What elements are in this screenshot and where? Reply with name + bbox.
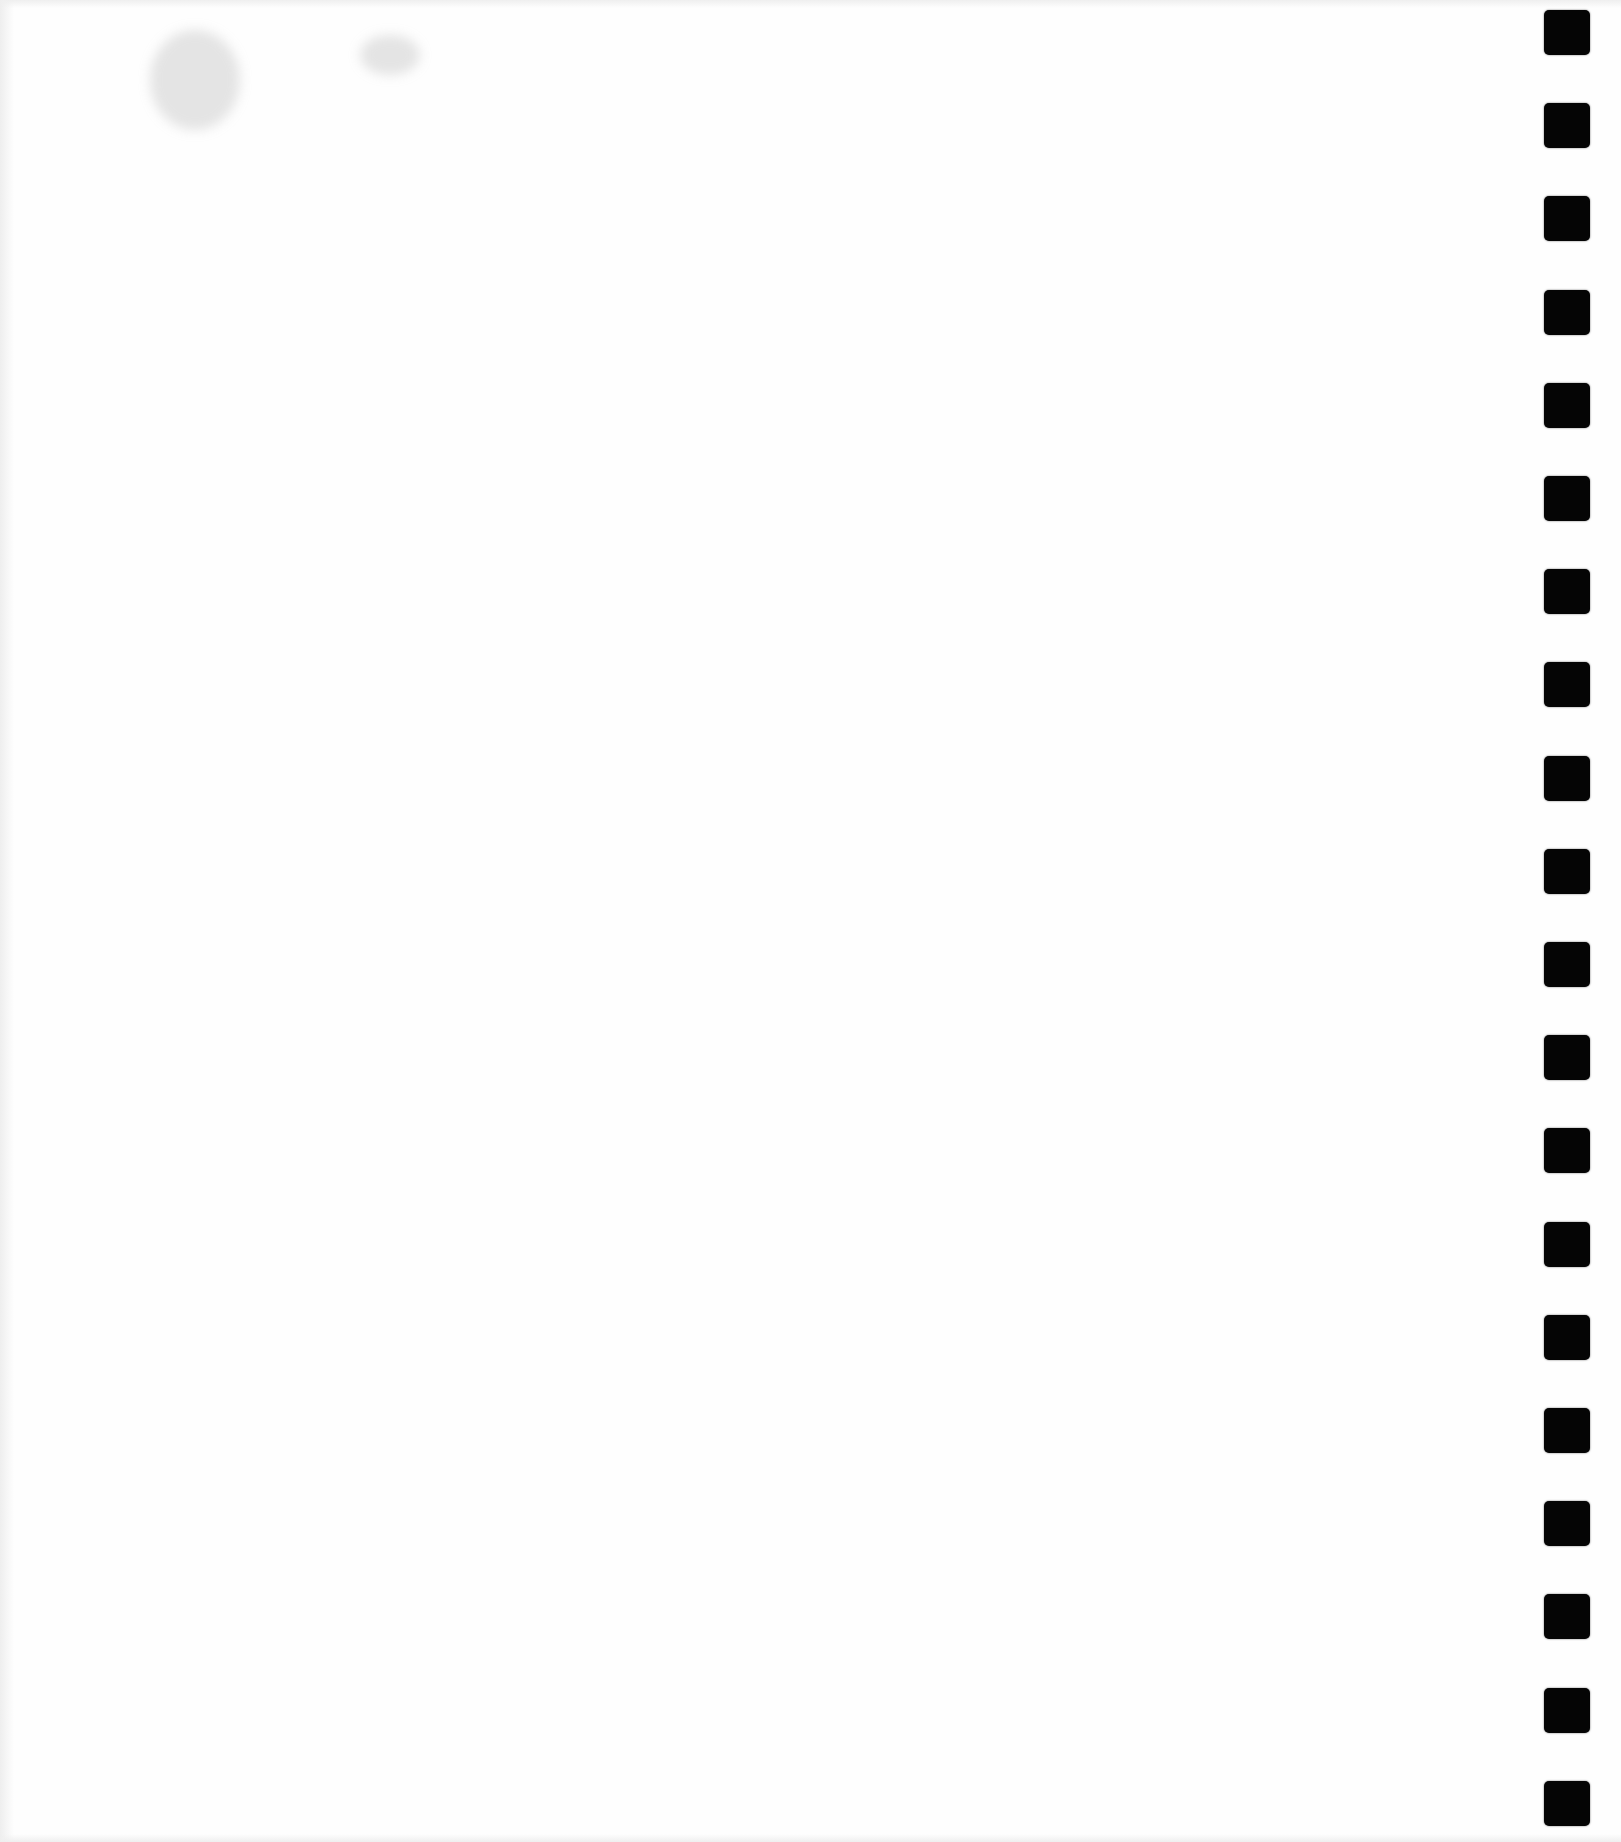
binding-hole — [1544, 756, 1590, 801]
scan-speckle — [150, 30, 240, 130]
scan-edge-shadow-bottom — [0, 1834, 1621, 1842]
binding-hole — [1544, 1222, 1590, 1267]
scanned-page — [0, 0, 1621, 1842]
binding-hole — [1544, 103, 1590, 148]
binding-hole — [1544, 942, 1590, 987]
binding-hole — [1544, 1688, 1590, 1733]
binding-hole — [1544, 476, 1590, 521]
binding-hole — [1544, 383, 1590, 428]
binding-hole — [1544, 10, 1590, 55]
binding-hole — [1544, 1408, 1590, 1453]
binding-hole-strip — [1544, 10, 1592, 1835]
binding-hole — [1544, 1501, 1590, 1546]
binding-hole — [1544, 1035, 1590, 1080]
binding-hole — [1544, 196, 1590, 241]
scan-edge-shadow-top — [0, 0, 1621, 8]
binding-hole — [1544, 290, 1590, 335]
scan-edge-shadow-left — [0, 0, 14, 1842]
binding-hole — [1544, 1781, 1590, 1826]
binding-hole — [1544, 849, 1590, 894]
binding-hole — [1544, 1315, 1590, 1360]
binding-hole — [1544, 569, 1590, 614]
binding-hole — [1544, 1128, 1590, 1173]
scan-speckle — [360, 35, 420, 75]
binding-hole — [1544, 1594, 1590, 1639]
binding-hole — [1544, 662, 1590, 707]
